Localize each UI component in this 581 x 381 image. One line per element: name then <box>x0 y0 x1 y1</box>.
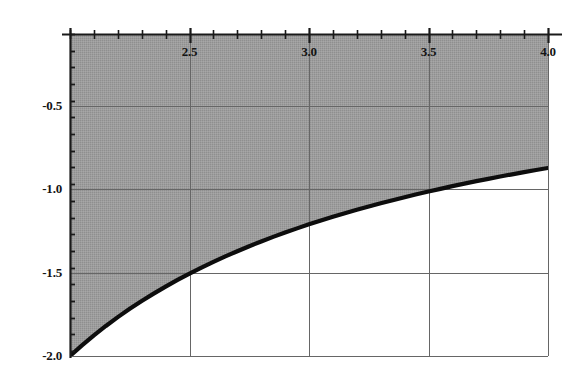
y-tick-label: -0.5 <box>42 98 62 114</box>
x-tick-label: 3.0 <box>301 44 317 60</box>
plot-canvas <box>0 0 581 381</box>
x-tick-label: 4.0 <box>540 44 556 60</box>
x-tick-label: 2.5 <box>182 44 198 60</box>
plot-figure: 2.53.03.54.0 -0.5-1.0-1.5-2.0 <box>0 0 581 381</box>
y-tick-label: -1.0 <box>42 181 62 197</box>
y-tick-label: -2.0 <box>42 348 62 364</box>
y-tick-label: -1.5 <box>42 265 62 281</box>
x-tick-label: 3.5 <box>421 44 437 60</box>
